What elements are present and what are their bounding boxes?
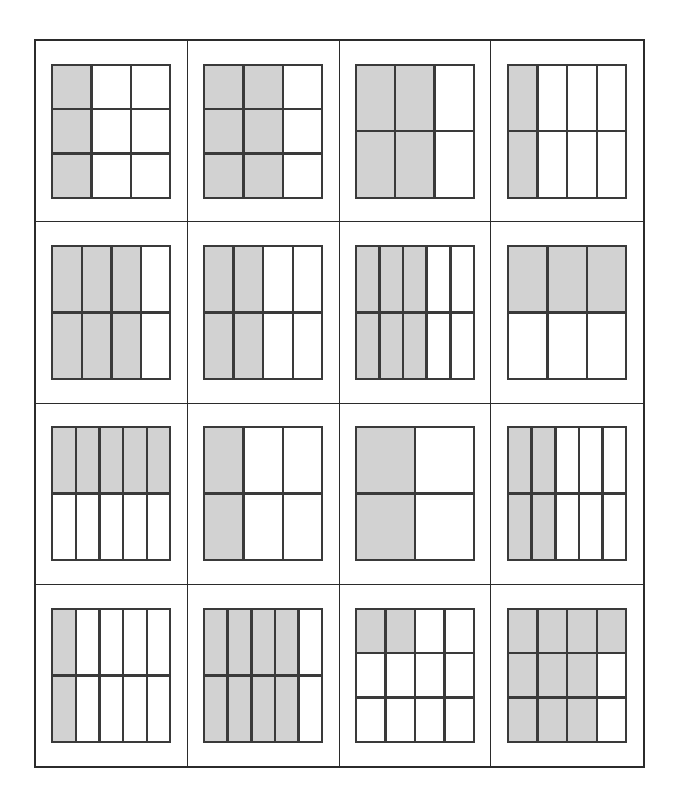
shaded-part <box>357 66 394 130</box>
unshaded-part <box>604 495 625 559</box>
unshaded-part <box>357 654 384 696</box>
fraction-panel <box>36 404 188 585</box>
shaded-part <box>357 610 384 652</box>
shaded-part <box>276 677 297 741</box>
shaded-part <box>83 314 110 378</box>
fraction-model-1 <box>51 64 171 199</box>
unshaded-part <box>387 654 414 696</box>
fraction-panel <box>36 585 188 766</box>
shaded-part <box>357 495 414 559</box>
unshaded-part <box>557 495 578 559</box>
unshaded-part <box>132 155 169 197</box>
unshaded-part <box>101 677 122 741</box>
shaded-part <box>83 247 110 311</box>
shaded-part <box>357 132 394 196</box>
shaded-part <box>205 155 242 197</box>
shaded-part <box>509 654 536 696</box>
unshaded-part <box>148 495 169 559</box>
shaded-part <box>357 314 378 378</box>
shaded-part <box>113 247 140 311</box>
shaded-part <box>357 247 378 311</box>
worksheet-frame <box>34 39 645 768</box>
shaded-part <box>235 247 262 311</box>
unshaded-part <box>568 132 595 196</box>
unshaded-part <box>300 610 321 674</box>
unshaded-part <box>53 495 74 559</box>
unshaded-part <box>357 699 384 741</box>
fraction-model-2 <box>203 64 323 199</box>
unshaded-part <box>588 314 625 378</box>
unshaded-part <box>124 677 145 741</box>
shaded-part <box>77 428 98 492</box>
unshaded-part <box>452 247 473 311</box>
shaded-part <box>245 66 282 108</box>
unshaded-part <box>264 314 291 378</box>
unshaded-part <box>245 428 282 492</box>
unshaded-part <box>284 155 321 197</box>
unshaded-part <box>416 699 443 741</box>
unshaded-part <box>101 495 122 559</box>
shaded-part <box>568 699 595 741</box>
unshaded-part <box>124 495 145 559</box>
fraction-model-14 <box>203 608 323 743</box>
unshaded-part <box>77 677 98 741</box>
shaded-part <box>396 132 433 196</box>
shaded-part <box>539 610 566 652</box>
shaded-part <box>509 495 530 559</box>
shaded-part <box>53 247 80 311</box>
shaded-part <box>253 677 274 741</box>
fraction-model-11 <box>355 426 475 561</box>
shaded-part <box>205 247 232 311</box>
shaded-part <box>229 677 250 741</box>
shaded-part <box>229 610 250 674</box>
panel-grid <box>36 41 643 766</box>
shaded-part <box>357 428 414 492</box>
fraction-panel <box>188 41 340 222</box>
shaded-part <box>381 314 402 378</box>
shaded-part <box>53 314 80 378</box>
shaded-part <box>253 610 274 674</box>
fraction-panel <box>188 585 340 766</box>
unshaded-part <box>93 155 130 197</box>
shaded-part <box>53 155 90 197</box>
shaded-part <box>113 314 140 378</box>
fraction-model-8 <box>507 245 627 380</box>
unshaded-part <box>580 495 601 559</box>
shaded-part <box>205 314 232 378</box>
shaded-part <box>588 247 625 311</box>
unshaded-part <box>284 428 321 492</box>
fraction-model-16 <box>507 608 627 743</box>
fraction-model-9 <box>51 426 171 561</box>
unshaded-part <box>539 66 566 130</box>
fraction-panel <box>491 41 643 222</box>
shaded-part <box>381 247 402 311</box>
unshaded-part <box>539 132 566 196</box>
shaded-part <box>53 66 90 108</box>
fraction-model-5 <box>51 245 171 380</box>
fraction-model-15 <box>355 608 475 743</box>
fraction-model-4 <box>507 64 627 199</box>
shaded-part <box>53 610 74 674</box>
unshaded-part <box>294 247 321 311</box>
fraction-panel <box>36 41 188 222</box>
unshaded-part <box>132 66 169 108</box>
unshaded-part <box>598 132 625 196</box>
shaded-part <box>245 110 282 152</box>
unshaded-part <box>598 654 625 696</box>
unshaded-part <box>148 610 169 674</box>
unshaded-part <box>604 428 625 492</box>
unshaded-part <box>387 699 414 741</box>
unshaded-part <box>598 699 625 741</box>
shaded-part <box>276 610 297 674</box>
unshaded-part <box>264 247 291 311</box>
shaded-part <box>148 428 169 492</box>
unshaded-part <box>568 66 595 130</box>
shaded-part <box>205 610 226 674</box>
shaded-part <box>509 610 536 652</box>
fraction-panel <box>188 222 340 403</box>
shaded-part <box>387 610 414 652</box>
unshaded-part <box>142 247 169 311</box>
fraction-panel <box>188 404 340 585</box>
unshaded-part <box>436 132 473 196</box>
unshaded-part <box>101 610 122 674</box>
